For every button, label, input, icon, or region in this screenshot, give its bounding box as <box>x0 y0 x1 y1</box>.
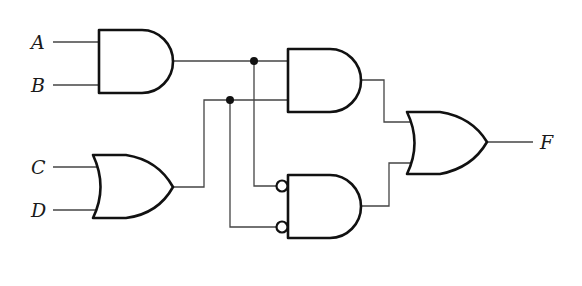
input-label-c: C <box>31 158 46 177</box>
logic-circuit-diagram: A B C D F <box>0 0 582 286</box>
wire-g4-out <box>361 163 412 206</box>
wire-cd-branch <box>230 100 276 227</box>
junction-dot-cd <box>226 96 234 104</box>
or-gate-final <box>407 112 487 174</box>
inverter-bubble-top <box>277 181 288 192</box>
and-gate-bottom <box>288 175 361 238</box>
and-gate-top <box>288 49 361 112</box>
wire-g3-out <box>361 80 412 122</box>
output-label-f: F <box>540 133 553 152</box>
wire-ab-branch <box>254 61 276 186</box>
inverter-bubble-bottom <box>277 222 288 233</box>
input-label-b: B <box>31 76 45 95</box>
and-gate-ab <box>99 30 173 93</box>
or-gate-cd <box>93 155 173 218</box>
junction-dot-ab <box>250 57 258 65</box>
input-label-d: D <box>31 201 46 220</box>
input-label-a: A <box>31 33 45 52</box>
circuit-drawing <box>0 0 582 286</box>
